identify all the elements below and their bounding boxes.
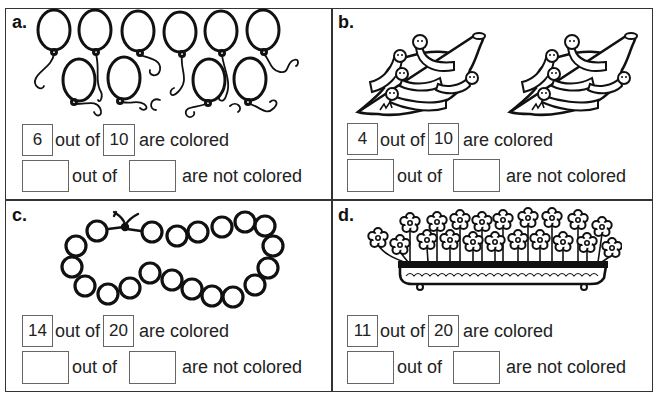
flower-icon xyxy=(400,213,419,232)
balloons-illustration xyxy=(30,8,310,123)
total-count-box[interactable]: 20 xyxy=(103,315,134,347)
out-of-label: out of xyxy=(55,131,100,149)
bead-icon xyxy=(167,226,187,246)
not-colored-count-box[interactable] xyxy=(347,159,394,192)
out-of-label: out of xyxy=(397,358,442,376)
flower-icon xyxy=(472,212,491,231)
bead-icon xyxy=(120,278,140,298)
bead-icon xyxy=(223,287,243,307)
out-of-label: out of xyxy=(380,322,425,340)
are-not-colored-label: are not colored xyxy=(182,167,302,185)
leaf-with-caterpillars-icon xyxy=(510,33,637,115)
flower-icon xyxy=(508,230,527,249)
not-colored-total-box[interactable] xyxy=(129,160,176,192)
not-colored-count-box[interactable] xyxy=(347,351,394,384)
bead-icon xyxy=(162,270,182,290)
colored-count-box[interactable]: 11 xyxy=(347,315,378,347)
flower-icon xyxy=(463,232,482,251)
bead-icon xyxy=(87,221,107,241)
flower-icon xyxy=(602,238,621,257)
total-count-box[interactable]: 10 xyxy=(103,124,135,156)
leaf-with-caterpillars-icon xyxy=(358,33,485,115)
flower-icon xyxy=(390,235,409,254)
flower-icon xyxy=(518,208,537,227)
horizontal-divider xyxy=(5,199,653,201)
bead-icon xyxy=(255,216,275,236)
flower-icon xyxy=(427,212,446,231)
flower-icon xyxy=(592,217,611,236)
flower-icon xyxy=(440,230,459,249)
flower-icon xyxy=(542,208,561,227)
total-count-box[interactable]: 20 xyxy=(428,315,459,347)
colored-count-box[interactable]: 6 xyxy=(22,124,53,156)
bead-necklace-illustration xyxy=(55,205,295,315)
out-of-label: out of xyxy=(397,167,442,185)
planter-icon xyxy=(398,261,608,290)
are-not-colored-label: are not colored xyxy=(506,167,626,185)
panel-letter: a. xyxy=(12,12,27,33)
balloon-icon xyxy=(35,10,70,88)
total-count-box[interactable]: 10 xyxy=(428,123,459,155)
balloon-icon xyxy=(247,10,298,72)
bead-icon xyxy=(140,263,160,283)
balloon-icon xyxy=(205,11,237,101)
bead-icon xyxy=(202,286,222,306)
flower-icon xyxy=(530,230,549,249)
are-not-colored-label: are not colored xyxy=(182,358,302,376)
are-colored-label: are colored xyxy=(463,131,553,149)
bead-icon xyxy=(263,236,283,256)
flower-icon xyxy=(577,233,596,252)
flower-icon xyxy=(553,232,572,251)
not-colored-total-box[interactable] xyxy=(129,351,176,384)
flower-icon xyxy=(485,232,504,251)
balloon-icon xyxy=(186,59,225,117)
not-colored-total-box[interactable] xyxy=(453,351,500,384)
flower-icon xyxy=(568,210,587,229)
bead-icon xyxy=(258,258,278,278)
panel-letter: d. xyxy=(338,205,354,226)
balloon-icon xyxy=(63,59,101,115)
not-colored-total-box[interactable] xyxy=(453,159,500,192)
not-colored-count-box[interactable] xyxy=(22,160,69,192)
caterpillars-on-leaves-illustration xyxy=(350,30,650,122)
are-colored-label: are colored xyxy=(139,131,229,149)
colored-count-box[interactable]: 14 xyxy=(22,315,53,347)
out-of-label: out of xyxy=(72,167,117,185)
balloon-icon xyxy=(108,57,147,110)
colored-count-box[interactable]: 4 xyxy=(347,123,378,155)
flower-icon xyxy=(450,210,469,229)
clasp-icon xyxy=(108,212,141,231)
are-colored-label: are colored xyxy=(463,322,553,340)
flower-icon xyxy=(368,228,387,247)
flower-icon xyxy=(493,210,512,229)
bead-icon xyxy=(98,284,118,304)
balloon-icon xyxy=(234,58,277,111)
out-of-label: out of xyxy=(380,131,425,149)
bead-icon xyxy=(182,279,202,299)
are-colored-label: are colored xyxy=(139,322,229,340)
not-colored-count-box[interactable] xyxy=(22,351,69,384)
balloon-icon xyxy=(164,12,196,95)
bead-icon xyxy=(212,217,232,237)
are-not-colored-label: are not colored xyxy=(506,358,626,376)
bead-icon xyxy=(66,236,86,256)
flower-planter-illustration xyxy=(360,205,622,295)
out-of-label: out of xyxy=(55,322,100,340)
bead-icon xyxy=(245,275,265,295)
flower-icon xyxy=(417,230,436,249)
bead-icon xyxy=(235,212,255,232)
bead-icon xyxy=(75,276,95,296)
bead-icon xyxy=(142,222,162,242)
balloon-icon xyxy=(122,11,160,75)
panel-letter: c. xyxy=(12,205,27,226)
bead-icon xyxy=(188,222,208,242)
out-of-label: out of xyxy=(72,358,117,376)
bead-icon xyxy=(62,257,82,277)
